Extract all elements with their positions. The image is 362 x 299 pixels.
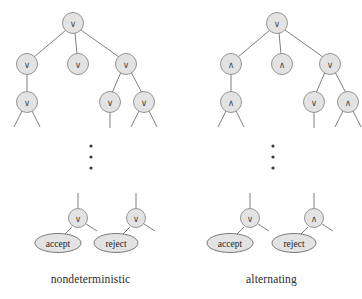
node-symbol: ∨ — [107, 98, 114, 108]
edge-root-right — [81, 30, 119, 57]
node-alt-l3-right: ∧ — [338, 92, 359, 113]
vertical-ellipsis-icon-alternating — [271, 144, 274, 169]
node-nd-l2-left: ∨ — [17, 54, 38, 75]
node-symbol: ∨ — [327, 60, 334, 70]
edge-dangle-l1 — [14, 111, 22, 127]
edge-right-child1 — [316, 72, 325, 93]
nd-accept-subtree: ∨ accept — [35, 193, 97, 253]
edge-dangle-l1 — [218, 111, 226, 127]
edge-root-left — [34, 30, 66, 57]
edge-right-child2 — [131, 72, 142, 93]
node-symbol: ∧ — [311, 214, 318, 224]
node-symbol: ∨ — [133, 214, 140, 224]
edge-root-middle — [279, 33, 281, 54]
node-symbol: ∧ — [279, 60, 286, 70]
node-symbol: ∨ — [274, 19, 281, 29]
edge-dangle-r2 — [353, 111, 361, 127]
node-symbol: ∨ — [123, 60, 130, 70]
edge-right-child1 — [112, 72, 121, 93]
ellipsis-dot — [89, 166, 92, 169]
node-alt-l2-middle: ∧ — [272, 54, 293, 75]
edge-root-middle — [75, 33, 77, 54]
node-symbol: ∨ — [75, 60, 82, 70]
panel-alternating: ∨ ∧ ∧ ∨ ∧ ∨ — [207, 13, 361, 253]
ellipsis-dot — [271, 155, 274, 158]
node-symbol: ∧ — [345, 98, 352, 108]
node-symbol: ∨ — [24, 98, 31, 108]
edge-dangle-l2 — [32, 111, 40, 127]
alt-accept-subtree: ∨ accept — [207, 193, 269, 253]
node-symbol: ∨ — [70, 19, 77, 29]
edge-accept-branch — [86, 224, 97, 231]
ellipsis-dot — [271, 166, 274, 169]
node-alt-l2-right: ∨ — [320, 54, 341, 75]
node-symbol: ∨ — [75, 214, 82, 224]
edge-reject-branch — [144, 224, 155, 231]
edge-dangle-r1 — [131, 111, 139, 127]
leaf-label-accept: accept — [218, 239, 243, 249]
node-symbol: ∨ — [24, 60, 31, 70]
node-alt-l3-left: ∧ — [221, 92, 242, 113]
diagram-canvas: ∨ ∨ ∨ ∨ ∨ ∨ — [0, 0, 362, 299]
node-symbol: ∨ — [141, 98, 148, 108]
node-symbol: ∨ — [311, 98, 318, 108]
ellipsis-dot — [89, 144, 92, 147]
node-symbol: ∧ — [228, 98, 235, 108]
caption-nondeterministic: nondeterministic — [0, 273, 181, 285]
edge-root-right — [285, 30, 323, 57]
node-nd-l2-right: ∨ — [116, 54, 137, 75]
edges-alternating — [218, 30, 361, 128]
edge-root-left — [238, 30, 270, 57]
nd-reject-subtree: ∨ reject — [94, 193, 155, 253]
edge-reject-branch — [322, 224, 333, 231]
node-alt-l2-left: ∧ — [221, 54, 242, 75]
node-nd-l3-right: ∨ — [134, 92, 155, 113]
computation-tree-figure: ∨ ∨ ∨ ∨ ∨ ∨ — [0, 0, 362, 299]
edge-accept-branch — [258, 224, 269, 231]
alt-reject-subtree: ∧ reject — [272, 193, 333, 253]
edge-dangle-r2 — [149, 111, 157, 127]
panel-nondeterministic: ∨ ∨ ∨ ∨ ∨ ∨ — [14, 13, 157, 253]
node-nd-root: ∨ — [63, 13, 84, 34]
leaf-label-reject: reject — [283, 239, 304, 249]
node-symbol: ∨ — [247, 214, 254, 224]
leaf-label-accept: accept — [46, 239, 71, 249]
node-alt-l3-mid: ∨ — [304, 92, 325, 113]
ellipsis-dot — [271, 144, 274, 147]
edges-nondeterministic — [14, 30, 157, 128]
node-nd-l2-middle: ∨ — [68, 54, 89, 75]
ellipsis-dot — [89, 155, 92, 158]
edge-dangle-l2 — [236, 111, 244, 127]
vertical-ellipsis-icon-nondeterministic — [89, 144, 92, 169]
leaf-label-reject: reject — [105, 239, 126, 249]
node-nd-l3-left: ∨ — [17, 92, 38, 113]
node-alt-root: ∨ — [267, 13, 288, 34]
node-nd-l3-mid: ∨ — [100, 92, 121, 113]
caption-alternating: alternating — [181, 273, 362, 285]
edge-right-child2 — [335, 72, 346, 93]
edge-dangle-r1 — [335, 111, 343, 127]
node-symbol: ∧ — [228, 60, 235, 70]
